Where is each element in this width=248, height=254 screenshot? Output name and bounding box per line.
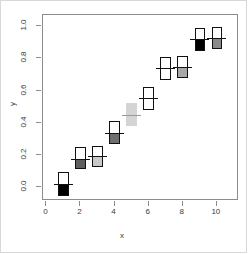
x-tick-label: 2 — [65, 208, 93, 216]
x-axis-title: x — [120, 232, 124, 240]
x-tick — [148, 201, 149, 206]
y-tick — [36, 25, 41, 26]
box-median-line — [173, 67, 192, 68]
x-tick-label: 8 — [168, 208, 196, 216]
box-median-line — [88, 156, 107, 157]
y-tick-label: 0.4 — [20, 111, 30, 133]
x-tick-label: 4 — [100, 208, 128, 216]
x-tick — [114, 201, 115, 206]
y-tick-label: 0.0 — [20, 175, 30, 197]
x-tick-label: 10 — [202, 208, 230, 216]
plot-canvas — [43, 15, 237, 199]
x-tick — [45, 201, 46, 206]
box-median-line — [54, 184, 73, 185]
box-median-line — [122, 115, 141, 116]
y-tick-label: 0.2 — [20, 143, 30, 165]
y-tick — [36, 90, 41, 91]
plot-panel — [42, 14, 238, 200]
x-tick-label: 6 — [134, 208, 162, 216]
y-tick-label: 0.8 — [20, 46, 30, 68]
x-tick — [79, 201, 80, 206]
box-median-line — [71, 159, 90, 160]
y-tick-label: 1.0 — [20, 14, 30, 36]
box-median-line — [190, 39, 209, 40]
y-axis-title: y — [9, 94, 17, 114]
y-tick — [36, 57, 41, 58]
boxplot-figure: y x 02468100.00.20.40.60.81.0 — [0, 0, 248, 254]
box-median-line — [156, 68, 175, 69]
y-tick-label: 0.6 — [20, 79, 30, 101]
y-tick — [36, 122, 41, 123]
x-tick — [182, 201, 183, 206]
y-tick — [36, 186, 41, 187]
x-tick — [216, 201, 217, 206]
x-tick-label: 0 — [31, 208, 59, 216]
box-median-line — [207, 38, 226, 39]
y-tick — [36, 154, 41, 155]
box-median-line — [105, 133, 124, 134]
box-median-line — [139, 98, 158, 99]
